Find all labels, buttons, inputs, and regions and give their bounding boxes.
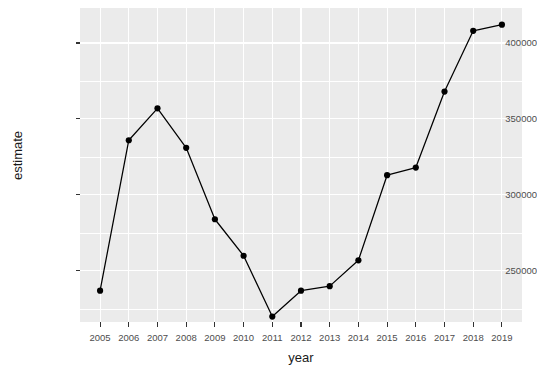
chart-title (0, 0, 537, 2)
data-point (97, 288, 103, 294)
y-tick-mark (76, 118, 81, 119)
x-tick-mark (501, 322, 502, 327)
y-tick-mark (76, 42, 81, 43)
x-tick-mark (444, 322, 445, 327)
x-tick-mark (415, 322, 416, 327)
x-tick-mark (300, 322, 301, 327)
x-tick-mark (387, 322, 388, 327)
y-tick-mark (76, 194, 81, 195)
data-point (126, 137, 132, 143)
data-point (441, 88, 447, 94)
series-estimate (80, 8, 522, 322)
x-tick-mark (214, 322, 215, 327)
data-point (154, 105, 160, 111)
data-point (241, 253, 247, 259)
x-tick-mark (473, 322, 474, 327)
x-tick-mark (186, 322, 187, 327)
data-point (327, 283, 333, 289)
y-tick-label: 250000 (475, 266, 537, 276)
x-tick-mark (358, 322, 359, 327)
data-point (298, 288, 304, 294)
data-point (212, 216, 218, 222)
x-axis-title: year (80, 350, 522, 365)
data-point (355, 257, 361, 263)
x-tick-mark (272, 322, 273, 327)
y-tick-label: 300000 (475, 190, 537, 200)
data-point (413, 164, 419, 170)
data-point (499, 22, 505, 28)
data-point (269, 313, 275, 319)
x-tick-mark (329, 322, 330, 327)
plot-panel (80, 8, 522, 322)
y-tick-label: 400000 (475, 38, 537, 48)
x-tick-mark (128, 322, 129, 327)
x-tick-mark (100, 322, 101, 327)
x-tick-mark (157, 322, 158, 327)
x-tick-mark (243, 322, 244, 327)
data-point (470, 28, 476, 34)
y-tick-label: 350000 (475, 114, 537, 124)
series-line (100, 25, 502, 317)
series-markers (97, 22, 505, 320)
x-tick-label: 2019 (480, 332, 524, 343)
y-axis-title: estimate (10, 106, 25, 206)
data-point (183, 145, 189, 151)
data-point (384, 172, 390, 178)
y-tick-mark (76, 270, 81, 271)
chart-plot-area: 250000300000350000400000 200520062007200… (0, 0, 537, 390)
